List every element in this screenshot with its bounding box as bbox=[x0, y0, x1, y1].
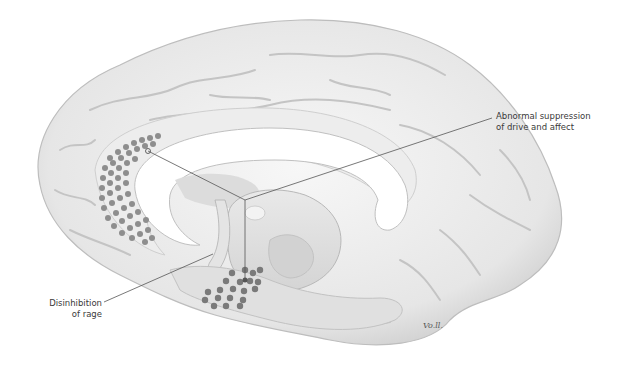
label-line: Abnormal suppression bbox=[496, 111, 591, 122]
interthalamic-adhesion bbox=[245, 206, 265, 220]
leader-anchor-hypothalamic bbox=[243, 278, 248, 283]
label-abnormal-suppression: Abnormal suppression of drive and affect bbox=[496, 111, 591, 133]
label-disinhibition-of-rage: Disinhibition of rage bbox=[20, 298, 102, 320]
label-line: Disinhibition bbox=[20, 298, 102, 309]
artist-signature: Vo.ll. bbox=[423, 321, 443, 330]
label-line: of drive and affect bbox=[496, 122, 591, 133]
label-line: of rage bbox=[20, 309, 102, 320]
